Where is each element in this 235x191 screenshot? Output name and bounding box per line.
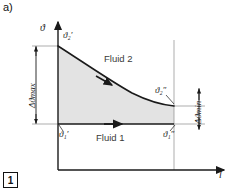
leader-t2-outlet [166,95,174,104]
fluid1-inlet-temperature-label: ϑ₁′ [59,130,69,139]
delta-temperature-max-label: Δϑmax [28,83,37,108]
figure-number-text: 1 [8,175,14,186]
fluid2-stream-label: Fluid 2 [104,54,133,64]
delta-temperature-min-label: Δϑmin [194,101,203,124]
part-label: a) [3,2,13,13]
fluid1-stream-label: Fluid 1 [96,133,125,143]
y-axis-label: ϑ [40,23,45,33]
fluid2-outlet-temperature-label: ϑ₂″ [155,86,166,95]
x-axis-label: l [219,170,222,180]
heat-exchanger-temperature-diagram: a) ϑ l ϑ₂′ ϑ₂″ ϑ₁′ ϑ₁″ Fluid 2 Fluid 1 Δ… [0,0,235,191]
fluid2-inlet-temperature-label: ϑ₂′ [63,31,73,40]
fluid1-outlet-temperature-label: ϑ₁″ [163,130,174,139]
figure-number-box: 1 [3,172,18,188]
